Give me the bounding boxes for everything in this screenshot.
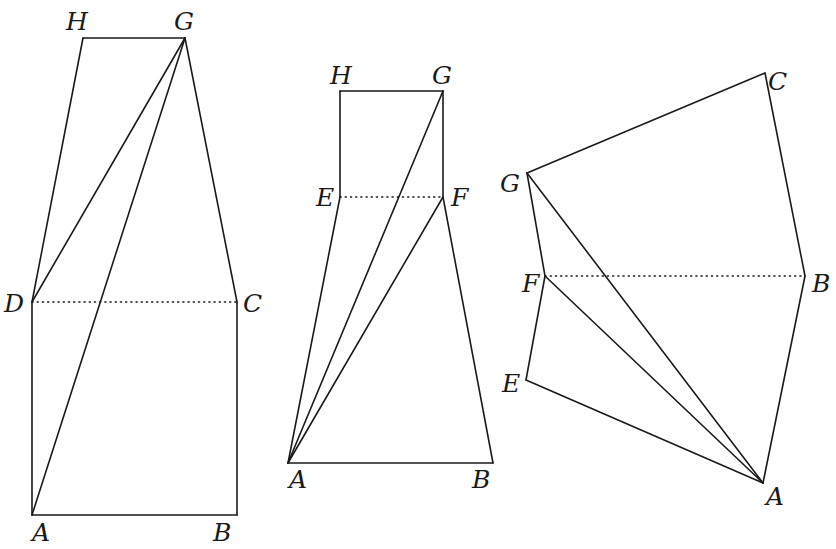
figure-2-hexagon-with-diagonals: HGEFAB <box>287 61 493 494</box>
vertex-label-A: A <box>30 518 50 547</box>
vertex-label-F: F <box>450 183 470 212</box>
segment-HD <box>32 38 83 302</box>
vertex-label-C: C <box>243 289 262 318</box>
segment-EA <box>526 380 763 483</box>
vertex-label-B: B <box>471 465 490 494</box>
segment-FA <box>288 197 443 463</box>
segment-FB <box>443 197 493 463</box>
vertex-label-A: A <box>764 482 784 511</box>
vertex-label-H: H <box>65 7 89 36</box>
geometry-diagram: HGDCAB HGEFAB CGFBEA <box>0 0 836 549</box>
segment-GA <box>32 38 185 515</box>
vertex-label-A: A <box>287 465 307 494</box>
vertex-label-B: B <box>811 269 830 298</box>
segment-GD <box>32 38 185 302</box>
segment-GF <box>527 173 545 276</box>
vertex-label-E: E <box>501 369 520 398</box>
vertex-label-H: H <box>329 61 353 90</box>
vertex-label-E: E <box>315 183 334 212</box>
vertex-label-G: G <box>432 61 452 90</box>
segment-GA <box>288 91 443 463</box>
vertex-label-D: D <box>3 289 24 318</box>
segment-EA <box>288 197 340 463</box>
vertex-label-C: C <box>768 67 787 96</box>
vertex-label-B: B <box>212 518 231 547</box>
segment-CB <box>765 73 805 276</box>
vertex-label-G: G <box>174 7 194 36</box>
segment-BA <box>763 276 805 483</box>
segment-GC <box>185 38 237 302</box>
vertex-label-F: F <box>521 269 541 298</box>
figure-1-hexagon-with-diagonals: HGDCAB <box>3 7 262 547</box>
segment-GC <box>527 73 765 173</box>
segment-FA <box>545 276 763 483</box>
figure-3-rotated-hexagon-with-diagonals: CGFBEA <box>500 67 830 511</box>
segment-GA <box>527 173 763 483</box>
vertex-label-G: G <box>500 169 520 198</box>
